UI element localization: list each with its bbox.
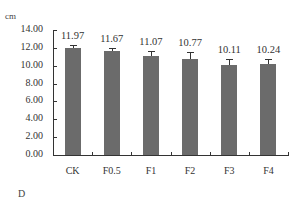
x-tick-label: F0.5 (92, 165, 132, 176)
x-tick-label: F4 (248, 165, 288, 176)
x-tick-label: CK (53, 165, 93, 176)
bar-ck (65, 48, 81, 155)
error-bar-cap (187, 52, 194, 53)
x-tick-mark (210, 152, 211, 155)
error-bar-cap (265, 59, 272, 60)
y-tick-mark (53, 48, 57, 49)
value-label: 11.67 (92, 33, 132, 44)
x-tick-mark (92, 152, 93, 155)
bar-chart: cm 0.002.004.006.008.0010.0012.0014.00 1… (0, 0, 305, 211)
x-tick-mark (171, 152, 172, 155)
value-label: 11.07 (131, 36, 171, 47)
value-label: 10.11 (209, 44, 249, 55)
y-tick-mark (53, 66, 57, 67)
error-bar-cap (226, 59, 233, 60)
y-tick-mark (53, 155, 57, 156)
x-axis (53, 155, 289, 156)
y-tick-label: 0.00 (3, 148, 43, 159)
error-bar-cap (109, 48, 116, 49)
x-tick-mark (288, 152, 289, 155)
bar-f0-5 (104, 51, 120, 155)
y-axis-unit: cm (5, 11, 16, 21)
y-tick-label: 8.00 (3, 77, 43, 88)
y-tick-label: 14.00 (3, 23, 43, 34)
y-tick-label: 6.00 (3, 94, 43, 105)
value-label: 11.97 (53, 30, 93, 41)
y-tick-mark (53, 101, 57, 102)
y-tick-label: 12.00 (3, 41, 43, 52)
value-label: 10.24 (248, 44, 288, 55)
x-tick-mark (249, 152, 250, 155)
panel-label: D (18, 188, 25, 199)
bar-f2 (182, 59, 198, 155)
bar-f3 (221, 65, 237, 155)
x-tick-label: F2 (170, 165, 210, 176)
y-tick-mark (53, 84, 57, 85)
y-tick-label: 10.00 (3, 59, 43, 70)
x-tick-label: F3 (209, 165, 249, 176)
error-bar-cap (148, 51, 155, 52)
value-label: 10.77 (170, 37, 210, 48)
y-tick-label: 4.00 (3, 112, 43, 123)
y-tick-label: 2.00 (3, 130, 43, 141)
bar-f1 (143, 56, 159, 155)
error-bar (190, 52, 191, 59)
x-tick-label: F1 (131, 165, 171, 176)
error-bar-cap (70, 45, 77, 46)
bar-f4 (260, 64, 276, 155)
x-tick-mark (131, 152, 132, 155)
y-tick-mark (53, 119, 57, 120)
y-tick-mark (53, 137, 57, 138)
